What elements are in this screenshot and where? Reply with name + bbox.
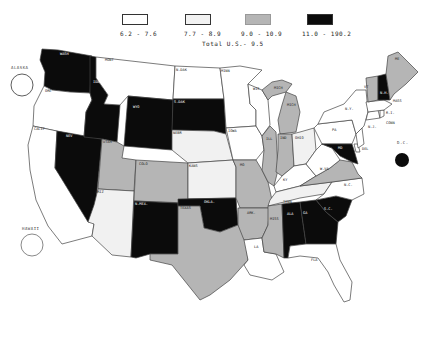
state-wyo (124, 96, 173, 150)
svg-text:ORE: ORE (45, 89, 52, 93)
svg-text:MICH: MICH (287, 103, 296, 107)
svg-text:S.C.: S.C. (324, 207, 333, 211)
svg-text:MICH: MICH (274, 86, 283, 90)
us-choropleth-map: WASH ORE CALIF NEV IDAHO MONT WYO UTAH A… (0, 0, 435, 337)
svg-text:NEV: NEV (66, 134, 73, 138)
svg-text:IOWA: IOWA (228, 129, 237, 133)
svg-text:TEXAS: TEXAS (180, 206, 191, 210)
dc-inset (395, 153, 409, 167)
svg-text:IDAHO: IDAHO (93, 80, 104, 84)
svg-text:MD: MD (338, 146, 342, 150)
state-colo (134, 160, 188, 203)
state-fla (288, 244, 352, 302)
svg-text:N.MEX.: N.MEX. (135, 202, 148, 206)
svg-text:OHIO: OHIO (295, 136, 304, 140)
svg-text:MINN: MINN (221, 69, 230, 73)
svg-text:CALIF: CALIF (34, 127, 45, 131)
alaska-inset (11, 74, 33, 96)
svg-text:ARK.: ARK. (247, 211, 256, 215)
svg-text:N.Y.: N.Y. (345, 107, 354, 111)
svg-text:MASS: MASS (393, 99, 402, 103)
state-mich (278, 92, 300, 134)
state-sdak (172, 99, 226, 134)
svg-text:WYO: WYO (133, 105, 140, 109)
svg-text:W.VA: W.VA (320, 167, 329, 171)
svg-text:COLO: COLO (139, 162, 148, 166)
svg-text:N.C.: N.C. (344, 183, 353, 187)
svg-text:ALA: ALA (287, 212, 294, 216)
svg-text:ARIZ: ARIZ (95, 190, 104, 194)
svg-text:S.DAK: S.DAK (174, 100, 186, 104)
svg-text:MONT: MONT (105, 58, 114, 62)
svg-text:TENN: TENN (283, 200, 292, 204)
svg-text:ILL: ILL (266, 137, 273, 141)
svg-text:WASH: WASH (60, 52, 69, 56)
state-nmex (131, 201, 178, 258)
svg-text:R.I.: R.I. (386, 111, 395, 115)
svg-text:ME: ME (395, 57, 399, 61)
svg-text:N.DAK: N.DAK (176, 68, 188, 72)
svg-text:IND: IND (280, 136, 287, 140)
svg-text:WIS: WIS (253, 87, 260, 91)
svg-text:NEBR: NEBR (173, 131, 182, 135)
svg-text:MO: MO (240, 163, 244, 167)
svg-text:N.H.: N.H. (380, 91, 389, 95)
state-vt (366, 76, 378, 102)
svg-text:UTAH: UTAH (103, 140, 112, 144)
state-maine (386, 52, 418, 100)
svg-text:OKLA.: OKLA. (204, 200, 215, 204)
state-ri (380, 110, 384, 118)
svg-text:KANS: KANS (189, 164, 198, 168)
svg-text:MISS: MISS (270, 217, 279, 221)
hawaii-inset (21, 234, 43, 256)
svg-text:N.J.: N.J. (368, 125, 377, 129)
svg-text:FLA: FLA (311, 258, 318, 262)
svg-text:CONN: CONN (386, 121, 395, 125)
svg-text:DEL: DEL (362, 147, 369, 151)
